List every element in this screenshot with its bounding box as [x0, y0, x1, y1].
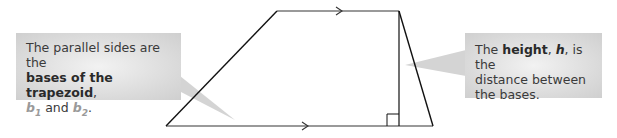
height-callout-line1: The height, h, is the	[475, 42, 602, 72]
height-callout-line2: distance between	[475, 72, 602, 87]
height-callout-line3: the bases.	[475, 87, 602, 102]
height-term: height	[502, 42, 547, 57]
bases-callout-line3: b1 and b2.	[26, 100, 181, 115]
bases-callout-line2: bases of the trapezoid,	[26, 70, 181, 100]
h-variable: h	[556, 42, 565, 57]
bases-callout: The parallel sides are the bases of the …	[16, 33, 181, 100]
height-callout: The height, h, is the distance between t…	[465, 33, 602, 98]
b1-variable: b	[26, 100, 35, 115]
bases-term: bases of the trapezoid	[26, 70, 113, 100]
right-angle-marker	[387, 114, 399, 126]
bases-callout-line1: The parallel sides are the	[26, 40, 181, 70]
b2-variable: b	[73, 100, 82, 115]
left-leg	[166, 11, 277, 126]
